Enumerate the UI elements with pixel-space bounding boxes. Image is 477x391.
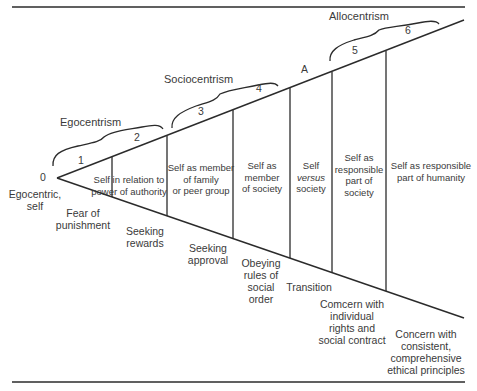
- motivation-approval: Seeking approval: [183, 242, 233, 266]
- motivation-ethical-principles: Concern with consistent, comprehensive e…: [384, 328, 468, 376]
- region-line-italic: versus: [290, 172, 332, 184]
- region-humanity: Self as responsible part of humanity: [388, 160, 474, 183]
- motivation-line: Seeking: [120, 225, 170, 237]
- stage-3: 3: [198, 105, 204, 117]
- motivation-line: Concern with: [384, 328, 468, 340]
- region-line: Self as responsible: [388, 160, 474, 172]
- allocentrism-brace: [330, 21, 439, 61]
- region-line: of family: [166, 174, 236, 186]
- region-society: Self as member of society: [234, 160, 290, 195]
- region-line: part of humanity: [388, 172, 474, 184]
- motivation-line: order: [238, 293, 284, 305]
- region-line: Self as: [332, 152, 386, 164]
- stage-2: 2: [134, 131, 140, 143]
- motivation-rewards: Seeking rewards: [120, 225, 170, 249]
- motivation-line: punishment: [52, 219, 114, 231]
- region-line: Self in relation to: [90, 174, 168, 186]
- region-line: society: [332, 187, 386, 199]
- region-line: Self as member: [166, 162, 236, 174]
- motivation-line: rights and: [314, 322, 390, 334]
- region-family: Self as member of family or peer group: [166, 162, 236, 197]
- motivation-line: consistent,: [384, 340, 468, 352]
- group-label-allocentrism: Allocentrism: [329, 10, 389, 22]
- stage-6: 6: [405, 24, 411, 36]
- group-label-sociocentrism: Sociocentrism: [164, 73, 233, 85]
- upper-wedge-line: [57, 20, 464, 178]
- motivation-line: social: [238, 281, 284, 293]
- motivation-line: Comcern with: [314, 298, 390, 310]
- group-label-egocentrism: Egocentrism: [60, 116, 121, 128]
- egocentrism-brace: [53, 125, 163, 166]
- motivation-line: Seeking: [183, 242, 233, 254]
- motivation-punishment: Fear of punishment: [52, 207, 114, 231]
- stage-0: 0: [40, 171, 46, 183]
- motivation-line: ethical principles: [384, 364, 468, 376]
- motivation-line: social contract: [314, 334, 390, 346]
- sociocentrism-brace: [172, 83, 278, 128]
- stage-5: 5: [352, 44, 358, 56]
- motivation-transition: Transition: [284, 281, 334, 293]
- region-line: power of authority: [90, 186, 168, 198]
- stage-A: A: [301, 63, 308, 75]
- region-line: of society: [234, 183, 290, 195]
- region-line: part of: [332, 175, 386, 187]
- motivation-line: Fear of: [52, 207, 114, 219]
- region-line: society: [290, 183, 332, 195]
- region-line: member: [234, 172, 290, 184]
- region-line: responsible: [332, 164, 386, 176]
- motivation-line: comprehensive: [384, 352, 468, 364]
- region-authority: Self in relation to power of authority: [90, 174, 168, 197]
- region-responsible-society: Self as responsible part of society: [332, 152, 386, 198]
- motivation-line: rules of: [238, 269, 284, 281]
- region-line: Self: [290, 160, 332, 172]
- origin-line-1: Egocentric,: [6, 188, 64, 200]
- motivation-line: rewards: [120, 237, 170, 249]
- motivation-line: approval: [183, 254, 233, 266]
- motivation-line: Obeying: [238, 257, 284, 269]
- region-line: or peer group: [166, 185, 236, 197]
- stage-4: 4: [256, 82, 262, 94]
- motivation-social-order: Obeying rules of social order: [238, 257, 284, 305]
- region-versus: Self versus society: [290, 160, 332, 195]
- motivation-line: Transition: [284, 281, 334, 293]
- motivation-social-contract: Comcern with individual rights and socia…: [314, 298, 390, 346]
- stage-1: 1: [78, 154, 84, 166]
- region-line: Self as: [234, 160, 290, 172]
- motivation-line: individual: [314, 310, 390, 322]
